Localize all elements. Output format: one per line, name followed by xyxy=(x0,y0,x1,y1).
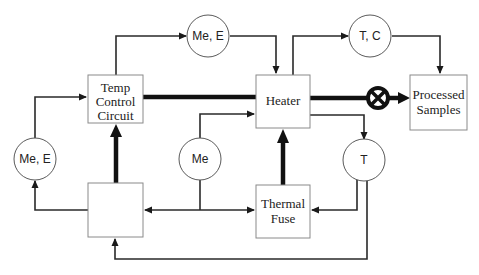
arrowhead-to-processed-samples xyxy=(398,92,410,104)
block-temp-control-circuit: Temp Control Circuit xyxy=(88,75,143,123)
arrow-into-temp-control xyxy=(35,97,86,139)
block-label-line: Processed xyxy=(413,87,465,102)
circle-t-c: T, C xyxy=(349,15,391,57)
block-label-line: Fuse xyxy=(271,211,296,226)
block-label-line: Temp xyxy=(101,80,130,95)
arrow-block-to-me-e-left xyxy=(35,181,88,210)
circle-label: Me, E xyxy=(19,152,50,166)
flow-diagram: Temp Control Circuit Heater Processed Sa… xyxy=(0,0,479,275)
block-label-line: Samples xyxy=(416,102,460,117)
arrow-me-to-heater xyxy=(200,114,254,139)
arrow-me-e-top-to-heater xyxy=(230,36,276,73)
arrowhead-to-heater xyxy=(277,129,289,143)
valve-icon xyxy=(368,88,388,108)
arrowhead-to-temp-control xyxy=(110,124,122,137)
arrow-t-to-thermal-fuse xyxy=(312,180,357,210)
block-processed-samples: Processed Samples xyxy=(410,75,467,130)
circle-me-e-top: Me, E xyxy=(187,15,229,57)
block-label-line: Control xyxy=(96,94,136,109)
block-label-line: Heater xyxy=(266,93,301,108)
arrow-t-c-to-processed-samples xyxy=(392,36,440,73)
circle-me: Me xyxy=(179,138,221,180)
block-heater: Heater xyxy=(256,75,310,128)
block-label-line: Thermal xyxy=(261,196,305,211)
circle-label: Me xyxy=(192,152,209,166)
arrow-heater-to-t xyxy=(310,115,364,139)
circle-label: T xyxy=(360,153,368,167)
block-thermal-fuse: Thermal Fuse xyxy=(256,185,310,238)
circle-label: Me, E xyxy=(192,29,223,43)
circle-me-e-left: Me, E xyxy=(14,138,56,180)
circle-label: T, C xyxy=(359,29,381,43)
arrow-t-feedback-to-block xyxy=(115,181,367,259)
block-unlabeled xyxy=(88,183,143,237)
arrow-temp-control-to-me-e-top xyxy=(116,36,186,75)
block-label-line: Circuit xyxy=(97,108,133,123)
arrow-heater-to-t-c xyxy=(293,36,348,75)
circle-t: T xyxy=(343,139,385,181)
